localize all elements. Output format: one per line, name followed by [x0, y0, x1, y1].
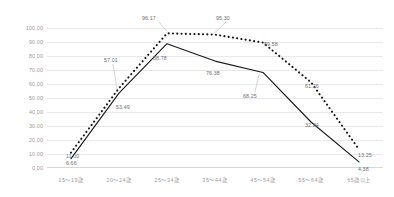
data-label-dotted-5: 61.26 — [305, 83, 319, 89]
data-label-solid-3: 76.38 — [206, 70, 220, 76]
data-label-dotted-1: 57.01 — [104, 57, 118, 63]
x-tick-label-1: 20～24歳 — [107, 176, 132, 183]
x-tick-label-3: 35～44歳 — [203, 176, 228, 183]
annotation-leader-lines — [113, 22, 259, 92]
data-label-solid-5: 32.84 — [305, 122, 319, 128]
data-label-dotted-2: 96.17 — [142, 15, 156, 21]
x-tick-label-5: 55～64歳 — [299, 176, 324, 183]
data-label-dotted-6: 13.25 — [358, 152, 372, 158]
data-label-dotted-4: 89.58 — [264, 41, 278, 47]
data-label-dotted-3: 95.30 — [216, 15, 230, 21]
x-tick-label-2: 25～34歳 — [155, 176, 180, 183]
dotted-series-line — [71, 33, 359, 152]
series-layer — [0, 0, 394, 197]
data-label-solid-4: 68.25 — [243, 93, 257, 99]
x-tick-label-0: 15～19歳 — [59, 176, 84, 183]
x-tick-label-6: 65歳以上 — [347, 176, 371, 183]
data-label-solid-1: 53.49 — [116, 104, 130, 110]
x-tick-label-4: 45～54歳 — [251, 176, 276, 183]
chart-container: 100.00 90.00 80.00 70.00 60.00 50.00 40.… — [0, 0, 394, 197]
data-label-dotted-0: 11.00 — [66, 153, 79, 159]
data-label-solid-2: 88.78 — [153, 55, 167, 61]
data-label-solid-0: 6.66 — [66, 160, 77, 166]
data-label-solid-6: 4.38 — [358, 166, 369, 172]
